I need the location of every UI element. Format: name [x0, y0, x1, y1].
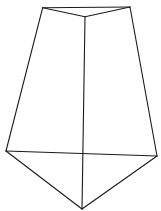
edge-top_left-bottom_left [6, 8, 43, 151]
edge-top_right-top_front [85, 7, 130, 17]
edge-top_left-top_right [43, 7, 130, 8]
edge-top_left-top_front [43, 8, 85, 17]
edge-bottom_left-bottom_front [6, 151, 82, 209]
frustum-diagram [0, 0, 161, 211]
edge-top_front-bottom_front [82, 17, 85, 209]
frustum-wireframe [0, 0, 161, 211]
edge-top_right-bottom_right [130, 7, 157, 156]
edge-bottom_right-bottom_front [82, 156, 157, 209]
edge-bottom_left-bottom_right [6, 151, 157, 156]
